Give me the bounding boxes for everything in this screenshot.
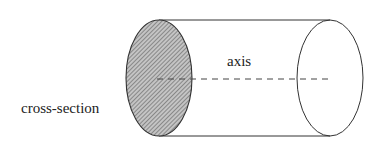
cross-section-label: cross-section	[21, 100, 100, 116]
cylinder-end-ellipse	[297, 20, 363, 136]
cylinder-diagram: axis cross-section	[0, 0, 384, 147]
cross-section-ellipse	[126, 20, 192, 136]
axis-label: axis	[227, 53, 251, 69]
